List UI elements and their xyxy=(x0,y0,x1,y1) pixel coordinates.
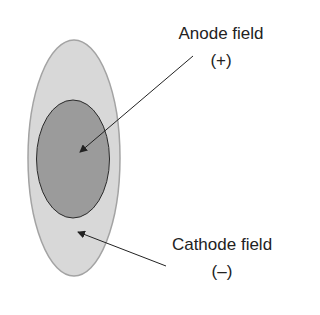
cathode-sign-label: (–) xyxy=(160,262,284,282)
anode-sign-label: (+) xyxy=(170,51,272,71)
anode-field-ellipse xyxy=(37,100,110,218)
anode-field-label: Anode field xyxy=(170,24,272,44)
cathode-field-label: Cathode field xyxy=(160,235,284,255)
